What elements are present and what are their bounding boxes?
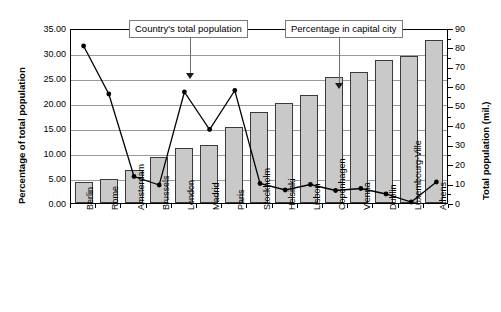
y-axis-right-tick-mark xyxy=(448,48,453,49)
line-marker xyxy=(106,92,111,97)
x-axis-label: Copenhagen xyxy=(338,158,347,210)
y-axis-right-minor-tick xyxy=(448,155,451,156)
y-axis-left-tick-label: 10.00 xyxy=(26,150,66,159)
y-axis-right-tick-label: 70 xyxy=(455,63,485,72)
x-axis-label: Luxembourg-Ville xyxy=(414,140,423,210)
chart-container: Percentage of total population Total pop… xyxy=(0,0,501,312)
y-axis-left-tick-label: 20.00 xyxy=(26,100,66,109)
y-axis-left-tick-label: 30.00 xyxy=(26,50,66,59)
line-marker xyxy=(207,127,212,132)
y-axis-right-tick-mark xyxy=(448,165,453,166)
line-marker xyxy=(232,88,237,93)
y-axis-left-ticks: 0.005.0010.0015.0020.0025.0030.0035.00 xyxy=(26,0,66,312)
y-axis-right-minor-tick xyxy=(448,58,451,59)
y-axis-right-tick-label: 60 xyxy=(455,83,485,92)
x-axis-label: Paris xyxy=(237,189,246,210)
callout-line-leader-line xyxy=(339,37,340,84)
y-axis-right-minor-tick xyxy=(448,136,451,137)
y-axis-right-tick-mark xyxy=(448,126,453,127)
plot-area xyxy=(70,29,448,204)
callout-country-total-population: Country's total population xyxy=(129,20,248,38)
y-axis-left-tick-label: 0.00 xyxy=(26,200,66,209)
y-axis-left-tick-label: 5.00 xyxy=(26,175,66,184)
y-axis-right-tick-mark xyxy=(448,87,453,88)
x-axis-label: Berlin xyxy=(86,187,95,210)
y-axis-right-minor-tick xyxy=(448,78,451,79)
callout-line-arrow-icon xyxy=(335,83,343,89)
x-axis-label: Madrid xyxy=(212,182,221,210)
y-axis-right-minor-tick xyxy=(448,117,451,118)
y-axis-right-tick-mark xyxy=(448,204,453,205)
x-axis-label: Athens xyxy=(439,182,448,210)
y-axis-right-tick-mark xyxy=(448,185,453,186)
callout-bar-leader-line xyxy=(190,37,191,74)
x-axis-labels: BerlinRomeAmsterdamBrusselsLondonMadridP… xyxy=(70,206,448,306)
line-series xyxy=(71,30,449,205)
y-axis-right-tick-label: 20 xyxy=(455,161,485,170)
y-axis-right-minor-tick xyxy=(448,194,451,195)
y-axis-right-tick-mark xyxy=(448,107,453,108)
y-axis-right-tick-label: 80 xyxy=(455,44,485,53)
x-axis-label: Helsinki xyxy=(288,178,297,210)
y-axis-right-tick-mark xyxy=(448,29,453,30)
y-axis-right-minor-tick xyxy=(448,97,451,98)
y-axis-right-tick-mark xyxy=(448,68,453,69)
y-axis-left-tick-label: 25.00 xyxy=(26,75,66,84)
y-axis-left-tick-label: 15.00 xyxy=(26,125,66,134)
x-axis-label: Stockholm xyxy=(263,168,272,210)
callout-percentage-in-capital-city: Percentage in capital city xyxy=(285,20,403,38)
y-axis-right-tick-label: 30 xyxy=(455,141,485,150)
x-axis-label: Dublin xyxy=(389,184,398,210)
x-axis-label: Rome xyxy=(111,186,120,210)
x-axis-label: London xyxy=(187,180,196,210)
y-axis-right-tick-mark xyxy=(448,146,453,147)
y-axis-right-tick-label: 50 xyxy=(455,102,485,111)
y-axis-right-tick-label: 0 xyxy=(455,200,485,209)
line-marker xyxy=(182,90,187,95)
y-axis-right-tick-label: 90 xyxy=(455,25,485,34)
x-axis-label: Vienna xyxy=(363,182,372,210)
y-axis-right-tick-label: 40 xyxy=(455,122,485,131)
y-axis-right-minor-tick xyxy=(448,39,451,40)
y-axis-right-minor-tick xyxy=(448,175,451,176)
x-axis-label: Brussels xyxy=(162,175,171,210)
line-marker xyxy=(81,44,86,49)
y-axis-right-ticks: 0102030405060708090 xyxy=(455,0,485,312)
y-axis-left-tick-label: 35.00 xyxy=(26,25,66,34)
y-axis-right-tick-label: 10 xyxy=(455,180,485,189)
x-axis-label: Amsterdam xyxy=(137,164,146,210)
callout-bar-arrow-icon xyxy=(186,73,194,79)
x-axis-label: Lisbon xyxy=(313,183,322,210)
